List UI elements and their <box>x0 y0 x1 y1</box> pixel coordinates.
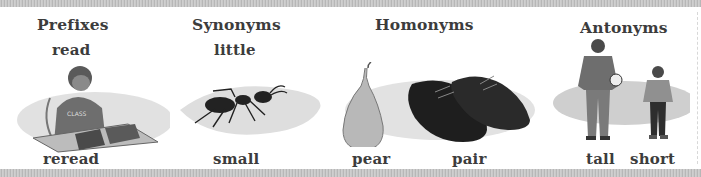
boy-reading-illustration: CLASS <box>5 58 170 153</box>
bottom-word-pear: pear <box>352 150 390 168</box>
top-word: little <box>214 41 256 59</box>
bottom-word: reread <box>43 150 99 168</box>
bottom-border <box>0 169 701 177</box>
right-dashed-edge <box>697 12 698 164</box>
pear-and-shoes-illustration <box>340 62 535 147</box>
bottom-word-short: short <box>630 150 675 168</box>
category-title: Antonyms <box>580 18 668 37</box>
bottom-word: small <box>213 150 259 168</box>
category-title: Prefixes <box>37 15 109 34</box>
bottom-word-tall: tall <box>586 150 615 168</box>
category-title: Homonyms <box>375 15 474 34</box>
svg-text:CLASS: CLASS <box>67 110 87 117</box>
tall-and-short-boys-illustration <box>550 38 690 148</box>
top-border <box>0 0 701 7</box>
top-word: read <box>52 41 90 59</box>
bottom-word-pair: pair <box>452 150 487 168</box>
ant-illustration <box>175 75 325 140</box>
category-title: Synonyms <box>192 15 281 34</box>
